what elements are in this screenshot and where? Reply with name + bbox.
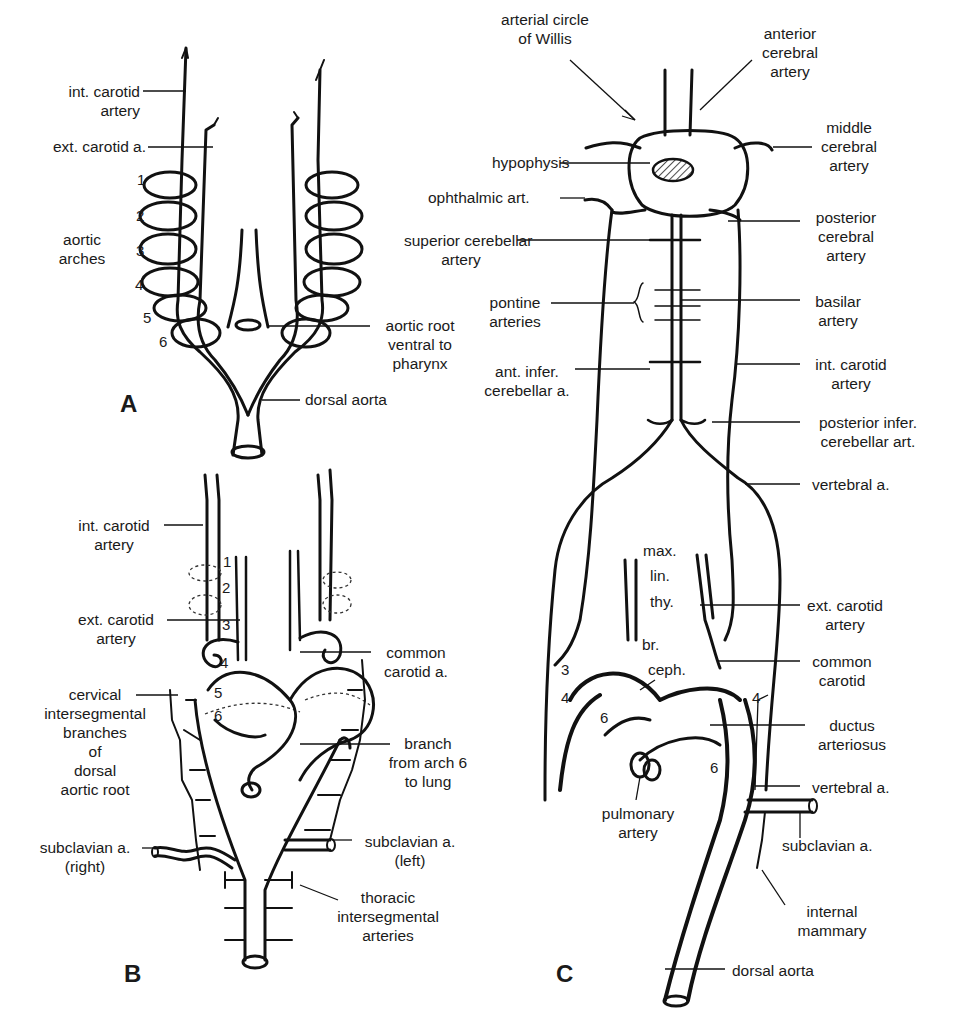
arch-number-a-5: 5 xyxy=(143,310,151,326)
label-b-ext-carotid: ext. carotid artery xyxy=(64,610,168,648)
label-c-posterior-infer-cerebellar: posterior infer. cerebellar art. xyxy=(806,413,930,451)
label-c-int-carotid: int. carotid artery xyxy=(806,355,896,393)
label-a-int-carotid: int. carotid artery xyxy=(40,82,140,120)
panel-letter-b: B xyxy=(124,960,141,988)
label-c-maxillary: max. xyxy=(643,541,677,560)
label-c-subclavian: subclavian a. xyxy=(782,836,872,855)
label-c-pontine: pontine arteries xyxy=(480,293,550,331)
label-c-thyroid: thy. xyxy=(650,592,674,611)
label-a-dorsal-aorta: dorsal aorta xyxy=(305,390,387,409)
arch-number-b-1: 1 xyxy=(223,554,231,570)
label-c-common-carotid: common carotid xyxy=(806,652,878,690)
label-c-brachiocephalic-ceph: ceph. xyxy=(648,660,686,679)
label-c-anterior-cerebral: anterior cerebral artery xyxy=(752,24,828,81)
arch-number-c-right-6: 6 xyxy=(710,760,718,776)
arch-number-a-4: 4 xyxy=(135,277,143,293)
label-c-lingual: lin. xyxy=(650,566,670,585)
arch-number-b-6: 6 xyxy=(214,708,222,724)
arch-number-b-5: 5 xyxy=(214,685,222,701)
label-c-dorsal-aorta: dorsal aorta xyxy=(732,961,814,980)
label-a-aortic-root: aortic root ventral to pharynx xyxy=(372,316,468,373)
arch-number-c-left-4: 4 xyxy=(561,690,569,706)
arch-number-a-6: 6 xyxy=(159,334,167,350)
arch-number-a-2: 2 xyxy=(136,208,144,224)
arch-number-a-1: 1 xyxy=(137,172,145,188)
label-c-vertebral-upper: vertebral a. xyxy=(812,475,890,494)
label-b-branch-arch6: branch from arch 6 to lung xyxy=(378,734,478,791)
panel-b-leader-lines xyxy=(136,525,390,900)
arch-number-c-left-3: 3 xyxy=(561,662,569,678)
arch-number-a-3: 3 xyxy=(136,243,144,259)
label-b-cervical-intersegmental: cervical intersegmental branches of dors… xyxy=(28,685,162,799)
arch-number-c-left-6: 6 xyxy=(600,710,608,726)
label-c-vertebral-lower: vertebral a. xyxy=(812,778,890,797)
label-c-brachiocephalic-br: br. xyxy=(642,635,659,654)
label-c-ductus-arteriosus: ductus arteriosus xyxy=(810,716,894,754)
label-b-subclavian-right: subclavian a. (right) xyxy=(26,838,144,876)
panel-letter-a: A xyxy=(120,390,137,418)
panel-letter-c: C xyxy=(556,960,573,988)
label-c-pulmonary-artery: pulmonary artery xyxy=(592,804,684,842)
label-b-thoracic-intersegmental: thoracic intersegmental arteries xyxy=(324,888,452,945)
label-c-ant-infer-cerebellar: ant. infer. cerebellar a. xyxy=(478,362,576,400)
arch-number-b-2: 2 xyxy=(222,580,230,596)
arch-number-b-4: 4 xyxy=(220,655,228,671)
label-a-ext-carotid: ext. carotid a. xyxy=(22,137,146,156)
label-c-posterior-cerebral: posterior cerebral artery xyxy=(808,208,884,265)
label-c-superior-cerebellar: superior cerebellar artery xyxy=(404,231,518,269)
label-c-circle-of-willis: arterial circle of Willis xyxy=(482,10,608,48)
arch-number-c-right-4: 4 xyxy=(752,690,760,706)
label-b-int-carotid: int. carotid artery xyxy=(64,516,164,554)
label-c-middle-cerebral: middle cerebral artery xyxy=(812,118,886,175)
label-c-basilar: basilar artery xyxy=(808,292,868,330)
label-a-aortic-arches: aortic arches xyxy=(52,230,112,268)
panel-c-vessels xyxy=(545,70,817,1006)
label-c-internal-mammary: internal mammary xyxy=(790,902,874,940)
label-c-hypophysis: hypophysis xyxy=(492,153,570,172)
label-b-common-carotid: common carotid a. xyxy=(376,643,456,681)
label-c-ophthalmic: ophthalmic art. xyxy=(428,188,530,207)
aortic-arch-development-figure: A B C int. carotid artery ext. carotid a… xyxy=(0,0,954,1021)
label-b-subclavian-left: subclavian a. (left) xyxy=(354,832,466,870)
label-c-ext-carotid: ext. carotid artery xyxy=(804,596,886,634)
arch-number-b-3: 3 xyxy=(222,617,230,633)
